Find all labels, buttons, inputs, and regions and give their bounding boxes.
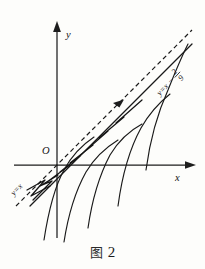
shifted-line-denominator: 9	[176, 73, 185, 82]
figure-container: y x O y=x y=x − 2 9 图 2	[0, 0, 205, 269]
cobweb-arrowhead	[113, 100, 124, 108]
x-axis-arrowhead	[185, 161, 196, 169]
curve-family-group	[44, 44, 188, 242]
curve-arc-5	[146, 44, 188, 170]
cobweb-diagram: y x O y=x y=x − 2 9	[0, 0, 205, 245]
caption-figure-number: 2	[108, 245, 116, 260]
figure-caption: 图 2	[0, 236, 205, 269]
identity-line-y-equals-x	[16, 30, 192, 206]
shifted-line-label-group: y=x − 2 9	[152, 66, 187, 102]
y-axis-arrowhead	[53, 21, 61, 32]
origin-label: O	[42, 145, 50, 156]
curve-arc-1	[44, 137, 94, 240]
y-axis-label: y	[65, 29, 71, 40]
caption-figure-glyph: 图	[90, 246, 103, 259]
shifted-line-y-equals-x-minus-two-ninths	[30, 44, 192, 206]
identity-line-label: y=x	[8, 181, 24, 198]
x-axis-label: x	[174, 172, 180, 183]
